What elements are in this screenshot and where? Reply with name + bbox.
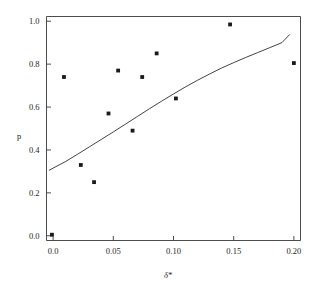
x-tick-label: 0.10: [166, 246, 181, 256]
scatter-plot: 0.00.20.40.60.81.0 0.00.050.100.150.20 p…: [0, 0, 323, 291]
y-axis-label: p: [17, 131, 21, 141]
y-tick-label: 0.4: [29, 145, 40, 155]
x-tick-label: 0.05: [106, 246, 121, 256]
data-point: [155, 52, 159, 56]
x-axis-label: δ*: [164, 270, 173, 280]
y-tick-label: 0.8: [29, 59, 40, 69]
y-tick-label: 0.0: [29, 231, 40, 241]
y-tick-label: 0.2: [29, 188, 40, 198]
data-point: [174, 97, 178, 101]
data-point: [79, 163, 83, 167]
data-point: [62, 75, 66, 79]
data-point: [228, 23, 232, 27]
data-point: [107, 112, 111, 116]
data-point: [92, 180, 96, 184]
data-point: [292, 61, 296, 65]
data-point: [116, 69, 120, 73]
data-point: [50, 233, 54, 237]
data-point: [140, 75, 144, 79]
x-tick-label: 0.20: [286, 246, 301, 256]
x-tick-label: 0.0: [48, 246, 59, 256]
x-tick-label: 0.15: [226, 246, 241, 256]
y-tick-label: 1.0: [29, 16, 40, 26]
figure-container: 0.00.20.40.60.81.0 0.00.050.100.150.20 p…: [0, 0, 323, 291]
y-tick-label: 0.6: [29, 102, 40, 112]
data-point: [131, 129, 135, 133]
